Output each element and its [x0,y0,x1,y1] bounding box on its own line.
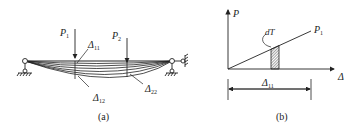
label-delta-22: Δ22 [144,83,157,95]
line-label-p1: P1 [313,24,323,36]
right-roller-support [165,54,188,76]
figure-a: P1 P2 Δ11 Δ12 Δ22 (a) [17,27,188,123]
caption-b: (b) [276,111,288,123]
label-p2: P2 [111,30,121,42]
label-dT: dT [265,27,276,37]
label-delta-11: Δ11 [87,39,100,51]
label-delta-12: Δ12 [92,92,105,104]
deflection-curves [25,61,172,78]
axis-label-delta: Δ [337,71,344,82]
axis-label-p: P [232,8,239,19]
diagram-canvas: P1 P2 Δ11 Δ12 Δ22 (a) P Δ P1 dT [0,0,357,129]
dimension-label-delta-11: Δ11 [261,77,274,89]
caption-a: (a) [98,111,109,123]
hatched-strip-dT [271,46,279,69]
figure-b: P Δ P1 dT Δ11 (b) [228,8,344,123]
label-p1: P1 [59,27,69,39]
